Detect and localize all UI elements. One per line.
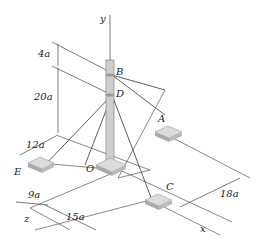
label-d: D	[115, 88, 124, 99]
base-c	[145, 194, 172, 210]
diagram-canvas: y B D A C E O x z 4a 20a 12a 9a 15a 18a	[0, 0, 256, 243]
pole-guy-wire-diagram: y B D A C E O x z 4a 20a 12a 9a 15a 18a	[0, 0, 256, 243]
dim-4a: 4a	[37, 48, 50, 59]
label-e: E	[13, 166, 22, 177]
dim-20a: 20a	[33, 91, 53, 102]
dim-12a: 12a	[26, 139, 45, 150]
dim-15a: 15a	[66, 211, 85, 222]
label-b: B	[115, 66, 123, 77]
dim-18a: 18a	[220, 188, 239, 199]
dim-9a: 9a	[28, 189, 40, 200]
base-o	[96, 158, 126, 176]
label-a: A	[157, 113, 165, 124]
ring-b	[106, 74, 115, 77]
label-y-axis: y	[99, 13, 106, 24]
ground-lines	[30, 90, 250, 235]
label-z-axis: z	[23, 213, 30, 224]
label-c: C	[166, 181, 174, 192]
cables	[40, 75, 165, 208]
ring-d	[106, 94, 115, 97]
label-o: O	[86, 163, 94, 174]
label-x-axis: x	[200, 223, 206, 234]
base-a	[155, 126, 182, 142]
